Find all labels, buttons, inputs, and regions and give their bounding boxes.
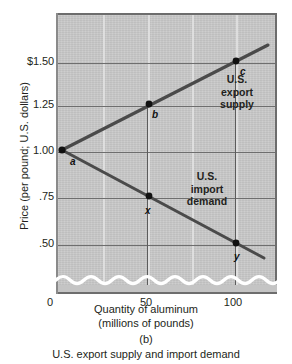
label-export-supply-line1: U.S.: [206, 73, 268, 86]
x-axis-strip: [58, 285, 277, 294]
dropline-q50: [147, 106, 148, 287]
gridline-y-0_75: [58, 198, 275, 199]
gridline-y-1_50: [58, 63, 275, 64]
y-axis-spine: [56, 13, 58, 294]
x-axis-title-line1: Quantity of aluminum: [0, 303, 292, 315]
label-export-supply-line2: export: [206, 86, 268, 99]
gridline-y-0_50: [58, 245, 275, 246]
gridline-y-1_00: [58, 152, 275, 153]
figure-title: U.S. export supply and import demand: [0, 348, 292, 360]
panel-label: (b): [0, 333, 292, 345]
label-import-demand-line1: U.S.: [176, 170, 238, 183]
label-import-demand-line3: demand: [176, 195, 238, 208]
label-export-supply-line3: supply: [206, 98, 268, 111]
label-export-supply: U.S. export supply: [206, 73, 268, 111]
point-label-c: c: [240, 66, 246, 77]
point-label-x: x: [145, 205, 151, 216]
point-label-a: a: [70, 156, 76, 167]
point-label-b: b: [152, 109, 158, 120]
vertical-gridline-2: [148, 15, 150, 294]
label-import-demand-line2: import: [176, 183, 238, 196]
point-label-y: y: [234, 251, 240, 262]
vertical-gridline-3: [192, 15, 194, 294]
vertical-gridline-1: [103, 15, 105, 294]
y-axis-title: Price (per pound; U.S. dollars): [18, 56, 30, 256]
figure-container: U.S. export supply U.S. import demand a …: [0, 0, 292, 364]
x-axis-title-line2: (millions of pounds): [0, 317, 292, 329]
label-import-demand: U.S. import demand: [176, 170, 238, 208]
plot-area: U.S. export supply U.S. import demand a …: [58, 13, 277, 294]
axis-break-squiggle: [56, 272, 279, 286]
